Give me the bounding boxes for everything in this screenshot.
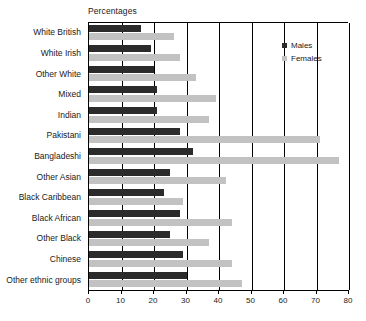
tick-label-50: 50 — [246, 296, 255, 305]
legend-item: Females — [282, 53, 322, 64]
tick-mark-80 — [348, 291, 349, 294]
tick-label-40: 40 — [214, 296, 223, 305]
bar-males — [89, 272, 187, 279]
x-axis-ticks: 01020304050607080 — [88, 291, 349, 317]
legend-label: Females — [291, 53, 322, 64]
tick-label-10: 10 — [116, 296, 125, 305]
bar-females — [89, 74, 196, 81]
category-label: Other ethnic groups — [6, 275, 81, 285]
bar-males — [89, 45, 151, 52]
category-label: Mixed — [58, 89, 81, 99]
category-label: White Irish — [41, 48, 81, 58]
tick-label-0: 0 — [86, 296, 90, 305]
category-label: Other White — [36, 69, 81, 79]
bar-males — [89, 231, 170, 238]
bar-males — [89, 86, 157, 93]
tick-label-70: 70 — [311, 296, 320, 305]
tick-mark-60 — [283, 291, 284, 294]
category-label: Black Caribbean — [19, 192, 81, 202]
legend-label: Males — [291, 40, 312, 51]
tick-mark-20 — [153, 291, 154, 294]
tick-mark-70 — [316, 291, 317, 294]
tick-label-80: 80 — [344, 296, 353, 305]
tick-mark-10 — [121, 291, 122, 294]
bar-females — [89, 280, 242, 287]
bar-males — [89, 66, 154, 73]
bar-females — [89, 54, 180, 61]
tick-mark-50 — [251, 291, 252, 294]
category-label: Chinese — [50, 254, 81, 264]
category-label: Black African — [32, 213, 81, 223]
tick-mark-40 — [218, 291, 219, 294]
category-label: Pakistani — [47, 130, 82, 140]
chart-axis-title: Percentages — [88, 6, 137, 16]
gridline-80 — [349, 23, 350, 290]
tick-mark-30 — [186, 291, 187, 294]
category-label: Bangladeshi — [34, 151, 81, 161]
category-label: Other Black — [37, 233, 81, 243]
bar-males — [89, 25, 141, 32]
legend-swatch-icon — [282, 56, 287, 61]
bar-females — [89, 116, 209, 123]
category-label: Other Asian — [37, 172, 81, 182]
tick-label-20: 20 — [149, 296, 158, 305]
category-label: Indian — [58, 110, 81, 120]
bar-males — [89, 107, 157, 114]
bar-females — [89, 95, 216, 102]
tick-mark-0 — [88, 291, 89, 294]
legend-swatch-icon — [282, 43, 287, 48]
bar-females — [89, 177, 226, 184]
tick-label-60: 60 — [279, 296, 288, 305]
bar-males — [89, 148, 193, 155]
bar-females — [89, 239, 209, 246]
bar-males — [89, 128, 180, 135]
category-labels: White BritishWhite IrishOther WhiteMixed… — [0, 22, 85, 290]
bar-females — [89, 136, 320, 143]
bar-females — [89, 157, 339, 164]
legend-item: Males — [282, 40, 322, 51]
tick-label-30: 30 — [181, 296, 190, 305]
bar-chart: Percentages 01020304050607080 White Brit… — [0, 0, 366, 321]
bar-females — [89, 219, 232, 226]
bar-females — [89, 198, 183, 205]
bar-females — [89, 260, 232, 267]
chart-legend: MalesFemales — [282, 40, 322, 66]
bar-females — [89, 33, 174, 40]
category-label: White British — [33, 27, 81, 37]
bar-males — [89, 251, 183, 258]
bar-males — [89, 210, 180, 217]
bar-males — [89, 189, 164, 196]
bar-males — [89, 169, 170, 176]
